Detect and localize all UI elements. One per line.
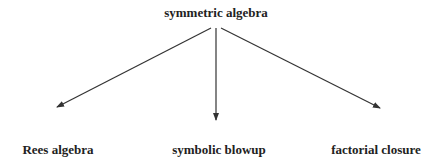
edges [0, 0, 432, 162]
node-symmetric-algebra: symmetric algebra [164, 6, 268, 19]
node-symbolic-blowup: symbolic blowup [172, 143, 266, 156]
node-rees-algebra: Rees algebra [22, 143, 93, 156]
arrow-to-factorial-closure [221, 28, 380, 108]
node-factorial-closure: factorial closure [331, 143, 421, 156]
diagram: symmetric algebra Rees algebra symbolic … [0, 0, 432, 162]
arrow-to-rees-algebra [57, 28, 211, 107]
